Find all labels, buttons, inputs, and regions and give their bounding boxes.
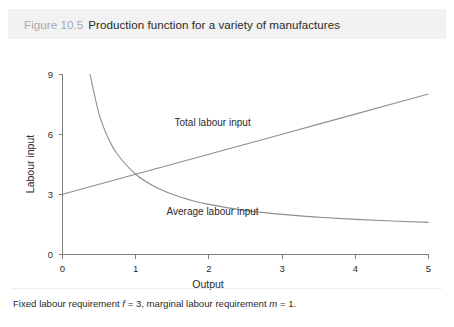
footnote-mid: = 3, marginal labour requirement	[125, 298, 269, 309]
x-tick-label-1: 1	[133, 263, 138, 274]
total-labour-input-curve	[63, 94, 429, 194]
figure-card: Figure 10.5Production function for a var…	[0, 0, 454, 327]
y-tick-label-3: 3	[48, 189, 53, 200]
chart-plot-area: 9 6 3 0 0 1 2 3 4 5 Output Labour input	[0, 0, 454, 300]
y-tick-label-6: 6	[48, 129, 53, 140]
total-labour-input-label: Total labour input	[175, 117, 251, 128]
figure-footnote: Fixed labour requirement f = 3, marginal…	[13, 296, 296, 312]
x-tick-label-3: 3	[279, 263, 284, 274]
x-tick-label-2: 2	[206, 263, 211, 274]
y-tick-label-9: 9	[48, 69, 53, 80]
y-axis-title: Labour input	[24, 135, 36, 193]
x-tick-label-5: 5	[426, 263, 431, 274]
footnote-prefix: Fixed labour requirement	[13, 298, 122, 309]
average-labour-input-label: Average labour input	[167, 206, 259, 217]
x-tick-label-4: 4	[353, 263, 358, 274]
x-tick-label-0: 0	[60, 263, 65, 274]
average-labour-input-curve	[90, 74, 429, 222]
y-tick-label-0: 0	[48, 249, 53, 260]
footnote-divider	[12, 288, 442, 289]
production-function-chart: 9 6 3 0 0 1 2 3 4 5 Output Labour input	[0, 0, 454, 300]
footnote-suffix: = 1.	[277, 298, 296, 309]
